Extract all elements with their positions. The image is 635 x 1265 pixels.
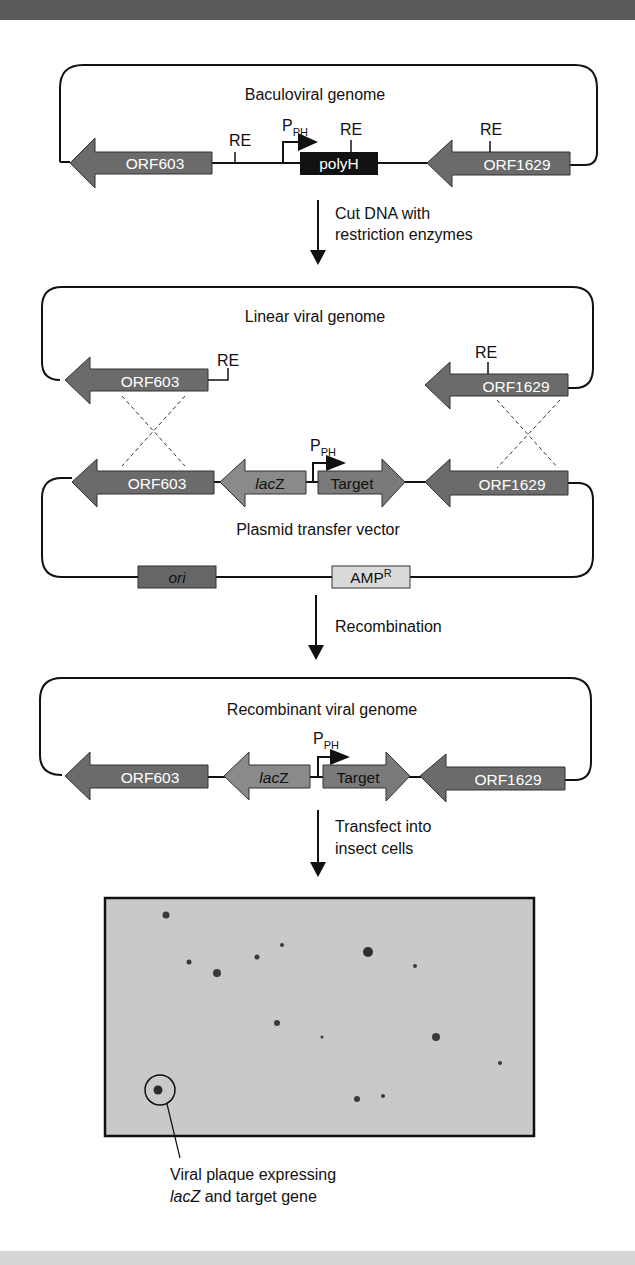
step1-line1: Cut DNA with [335, 205, 430, 222]
plasmid-transfer-vector-panel: ORF603 lacZ PPH Target ORF1629 Plasmid t… [42, 437, 593, 588]
linear-re-1: RE [217, 352, 239, 369]
linear-title: Linear viral genome [245, 308, 386, 325]
baculovirus-expression-diagram: Baculoviral genome ORF603 RE PPH polyH R… [0, 0, 635, 1265]
baculoviral-title: Baculoviral genome [245, 86, 386, 103]
step2-label: Recombination [335, 618, 442, 635]
plasmid-promoter-label: PPH [310, 437, 336, 458]
recombinant-label-orf603: ORF603 [121, 769, 180, 786]
linear-label-orf603: ORF603 [121, 373, 180, 390]
plasmid-label-orf603: ORF603 [128, 475, 187, 492]
recombinant-title: Recombinant viral genome [227, 701, 417, 718]
plasmid-label-target: Target [330, 475, 374, 492]
plasmid-title: Plasmid transfer vector [236, 521, 400, 538]
gene-label-orf603: ORF603 [126, 155, 185, 172]
down-arrow-icon [310, 862, 326, 877]
recombinant-viral-genome-panel: Recombinant viral genome ORF603 lacZ PPH… [40, 678, 591, 802]
ori-label: ori [168, 569, 186, 586]
plasmid-label-lacz: lacZ [255, 475, 284, 492]
step-cut-dna: Cut DNA with restriction enzymes [310, 200, 473, 265]
bottom-strip [0, 1251, 635, 1265]
plaque-photo [105, 898, 534, 1158]
down-arrow-icon [310, 250, 326, 265]
recombinant-promoter-arrow-icon [330, 749, 350, 765]
recombinant-promoter-label: PPH [313, 730, 339, 751]
baculoviral-genome-panel: Baculoviral genome ORF603 RE PPH polyH R… [60, 65, 597, 188]
down-arrow-icon [308, 645, 324, 660]
linear-label-orf1629: ORF1629 [482, 378, 549, 395]
step-transfect: Transfect into insect cells [310, 810, 431, 877]
step1-line2: restriction enzymes [335, 226, 473, 243]
step-recombination: Recombination [308, 595, 442, 660]
linear-re-2: RE [475, 344, 497, 361]
recombinant-label-lacz: lacZ [259, 769, 288, 786]
crossover-lines [122, 396, 560, 468]
plasmid-label-orf1629: ORF1629 [478, 476, 545, 493]
re-site-3: RE [480, 121, 502, 138]
photo-caption-line1: Viral plaque expressing [170, 1166, 336, 1183]
photo-caption-line2: lacZ and target gene [170, 1188, 317, 1205]
gene-label-polyh: polyH [319, 155, 359, 172]
recombinant-label-target: Target [336, 769, 380, 786]
recombinant-label-orf1629: ORF1629 [474, 771, 541, 788]
re-site-2: RE [340, 121, 362, 138]
step3-line1: Transfect into [335, 818, 431, 835]
promoter-label: PPH [282, 117, 308, 138]
step3-line2: insect cells [335, 840, 413, 857]
gene-label-orf1629: ORF1629 [483, 156, 550, 173]
re-site-1: RE [229, 132, 251, 149]
